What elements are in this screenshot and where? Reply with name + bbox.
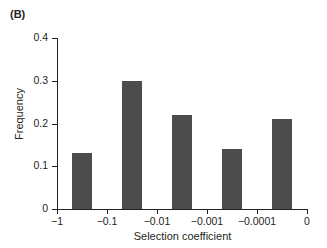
x-tick-mark-0 — [57, 209, 58, 214]
y-tick-label-0: 0 — [42, 202, 48, 214]
panel-label: (B) — [10, 8, 25, 20]
x-tick-mark-3 — [207, 209, 208, 214]
y-tick-mark-1 — [52, 166, 57, 167]
x-tick-mark-2 — [157, 209, 158, 214]
x-axis-line — [57, 209, 308, 210]
x-tick-label-3: −0.001 — [191, 215, 223, 227]
bar-2 — [172, 115, 192, 209]
bar-0 — [72, 153, 92, 209]
x-tick-label-0: −1 — [51, 215, 63, 227]
y-tick-mark-2 — [52, 124, 57, 125]
figure-panel-b: (B) 0 0.1 0.2 0.3 0.4 −1 −0.1 −0.01 −0.0… — [0, 0, 327, 248]
y-tick-label-3: 0.3 — [33, 74, 48, 86]
x-axis-title: Selection coefficient — [57, 230, 308, 242]
x-tick-label-4: −0.0001 — [238, 215, 276, 227]
y-tick-mark-3 — [52, 81, 57, 82]
y-tick-label-4: 0.4 — [33, 31, 48, 43]
bar-1 — [122, 81, 142, 209]
y-tick-label-1: 0.1 — [33, 159, 48, 171]
bar-4 — [272, 119, 292, 209]
y-axis-line — [57, 38, 58, 210]
x-tick-mark-1 — [107, 209, 108, 214]
y-tick-mark-4 — [52, 38, 57, 39]
x-tick-label-1: −0.1 — [97, 215, 118, 227]
y-tick-label-2: 0.2 — [33, 117, 48, 129]
x-tick-mark-4 — [257, 209, 258, 214]
x-tick-label-2: −0.01 — [144, 215, 171, 227]
x-tick-mark-5 — [307, 209, 308, 214]
x-tick-label-5: 0 — [304, 215, 310, 227]
y-axis-title: Frequency — [13, 59, 25, 169]
bar-3 — [222, 149, 242, 209]
